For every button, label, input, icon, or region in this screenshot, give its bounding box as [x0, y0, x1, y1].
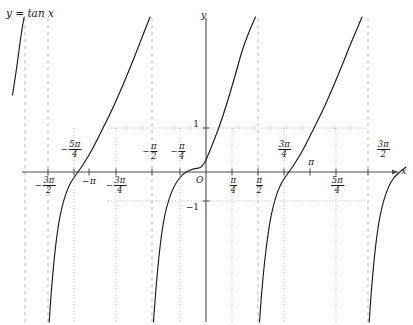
x-tick-label-three-pi-over-two: 3π2 — [376, 140, 390, 158]
denominator: 4 — [331, 186, 344, 195]
y-tick-label-one-text: 1 — [193, 119, 199, 129]
numerator: π — [90, 176, 96, 186]
x-tick-label-neg-pi-over-two: −π2 — [142, 142, 157, 160]
denominator: 4 — [178, 152, 186, 161]
fraction: 5π4 — [331, 176, 344, 194]
x-tick-label-neg-pi-over-four: −π4 — [170, 142, 185, 160]
fraction: 3π2 — [377, 140, 390, 158]
fraction: π2 — [255, 176, 263, 194]
x-tick-label-pi-over-four: π4 — [229, 176, 237, 194]
y-axis-label-text: y — [201, 9, 206, 20]
plot-title: y = tan x — [6, 8, 54, 19]
fraction: π4 — [178, 142, 186, 160]
numerator: π — [308, 157, 314, 167]
minus-sign: − — [82, 177, 90, 186]
y-tick-label-negative-one-text: −1 — [186, 202, 199, 212]
y-tick-label-one: 1 — [193, 120, 199, 129]
x-tick-label-three-pi-over-four: 3π4 — [277, 140, 291, 158]
tangent-curve — [13, 17, 407, 322]
denominator: 2 — [377, 150, 390, 159]
x-tick-label-neg-five-pi-over-four: −5π4 — [61, 140, 82, 158]
fraction: 3π2 — [42, 176, 55, 194]
denominator: 2 — [255, 186, 263, 195]
denominator: 4 — [229, 186, 237, 195]
minus-sign: − — [106, 181, 114, 190]
y-tick-label-negative-one: −1 — [186, 203, 199, 212]
denominator: 4 — [113, 186, 126, 195]
denominator: 2 — [150, 152, 158, 161]
axes — [22, 18, 398, 322]
origin-label: O — [196, 176, 203, 185]
fraction: π2 — [150, 142, 158, 160]
x-axis-label: x — [401, 166, 406, 176]
branch-two — [369, 167, 406, 322]
fraction: π4 — [229, 176, 237, 194]
tangent-function-plot: y = tan x y x O 1 −1 −3π2 −5π4 −π −3π4 −… — [0, 0, 413, 325]
fraction: 3π4 — [113, 176, 126, 194]
origin-label-text: O — [196, 175, 203, 185]
plot-canvas — [0, 0, 413, 325]
x-tick-label-neg-pi: −π — [82, 177, 96, 186]
x-tick-label-pi: π — [308, 158, 314, 167]
x-tick-label-five-pi-over-four: 5π4 — [330, 176, 344, 194]
denominator: 4 — [68, 150, 81, 159]
minus-sign: − — [142, 147, 150, 156]
minus-sign: − — [170, 147, 178, 156]
branch-one — [260, 17, 363, 322]
fraction: 3π4 — [278, 140, 291, 158]
branch-neg-two — [49, 17, 150, 322]
fraction: 5π4 — [68, 140, 81, 158]
plot-title-text: y = tan x — [6, 7, 54, 19]
dotted-grid — [74, 128, 366, 322]
x-tick-label-neg-three-pi-over-four: −3π4 — [106, 176, 127, 194]
x-axis-label-text: x — [401, 165, 406, 176]
x-tick-label-pi-over-two: π2 — [255, 176, 263, 194]
x-tick-label-neg-three-pi-over-two: −3π2 — [35, 176, 56, 194]
denominator: 2 — [42, 186, 55, 195]
minus-sign: − — [35, 181, 43, 190]
y-axis-label: y — [201, 10, 206, 20]
branch-neg-one — [154, 17, 256, 322]
minus-sign: − — [61, 145, 69, 154]
branch-neg-three — [13, 17, 25, 95]
asymptote-lines — [25, 18, 368, 322]
denominator: 4 — [278, 150, 291, 159]
